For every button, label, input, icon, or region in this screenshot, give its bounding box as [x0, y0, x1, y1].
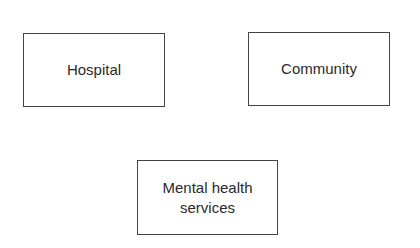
- node-label: Community: [281, 59, 357, 79]
- node-label: Hospital: [67, 60, 121, 80]
- node-label: Mental health services: [146, 178, 269, 218]
- node-mental-health-services: Mental health services: [137, 160, 278, 235]
- node-hospital: Hospital: [23, 33, 165, 107]
- node-community: Community: [248, 32, 390, 106]
